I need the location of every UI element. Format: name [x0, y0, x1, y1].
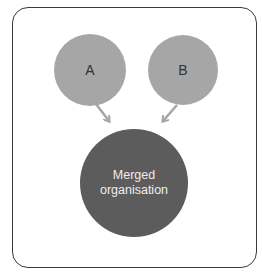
- arrow-a-to-merged: [96, 104, 109, 121]
- node-b-label: B: [163, 62, 203, 78]
- merged-node-label: Merged organisation: [84, 168, 184, 198]
- merged-label-line2: organisation: [84, 183, 184, 198]
- arrow-b-to-merged: [163, 105, 177, 121]
- diagram-canvas: [0, 0, 262, 277]
- merged-label-line1: Merged: [84, 168, 184, 183]
- node-a-label: A: [70, 62, 110, 78]
